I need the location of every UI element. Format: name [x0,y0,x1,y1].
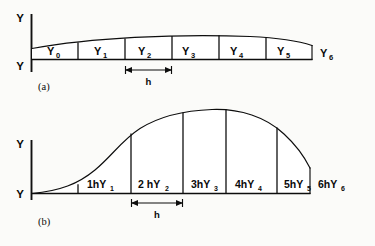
panel-b-ordinate-3-text: 4hY [235,178,254,190]
panel-b-ordinate-0-sub: 1 [110,185,114,192]
panel-a-dimension-label: h [146,76,152,87]
panel-b-caption: (b) [38,216,51,228]
panel-a-axis-label-top: Y [16,12,24,24]
panel-a-ordinate-2-text: Y [138,45,146,57]
panel-a-ordinate-5-sub: 5 [286,51,290,60]
panel-b-axis-label-top: Y [16,138,24,150]
panel-a-ordinate-2-sub: 2 [147,51,151,60]
panel-b-ordinate-2-sub: 3 [214,185,218,192]
panel-a-ordinate-6-text: Y [320,47,328,59]
panel-a-ordinate-0-sub: 0 [56,51,60,60]
panel-b-ordinate-5-text: 6hY [318,178,337,190]
figure-root: Y Y Y 0 Y 1 [0,0,375,246]
panel-b-ordinate-4-sub: 5 [307,185,311,192]
figure-canvas: Y Y Y 0 Y 1 [0,0,375,246]
panel-a-ordinate-4-text: Y [230,45,238,57]
panel-a-ordinate-6-sub: 6 [329,53,333,62]
panel-b-dimension-label: h [154,209,160,220]
panel-b-ordinate-4-text: 5hY [284,178,303,190]
panel-a-ordinate-1-text: Y [94,45,102,57]
panel-a-axis-label-bottom: Y [16,60,24,72]
panel-b-ordinate-3-sub: 4 [258,185,262,192]
panel-a-ordinate-5-text: Y [277,45,285,57]
panel-b-ordinate-5-sub: 6 [341,185,345,192]
panel-a-ordinate-0-text: Y [47,45,55,57]
panel-b-ordinate-1-sub: 2 [165,185,169,192]
panel-a-ordinate-3-text: Y [182,45,190,57]
panel-a-ordinate-3-sub: 3 [191,51,195,60]
panel-a-caption: (a) [38,81,50,93]
panel-b-axis-label-bottom: Y [16,188,24,200]
panel-b-ordinate-1-text: 2 hY [138,178,160,190]
panel-b-ordinate-2-text: 3hY [191,178,210,190]
panel-b-ordinate-0-text: 1hY [87,178,106,190]
panel-a-ordinate-1-sub: 1 [103,51,107,60]
